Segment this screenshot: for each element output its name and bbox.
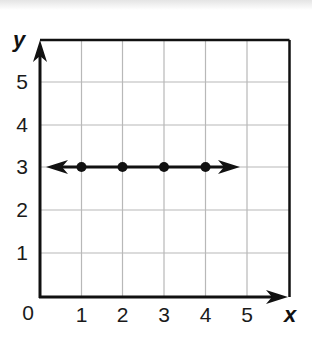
- point-3-3: [159, 162, 169, 172]
- y-axis: [33, 40, 47, 298]
- point-2-3: [118, 162, 128, 172]
- y-axis-label: y: [12, 27, 27, 52]
- coordinate-plane: 5 4 3 2 1 0 1 2 3 4 5 y x: [0, 0, 312, 345]
- y-tick-2: 2: [16, 198, 28, 221]
- y-tick-labels: 5 4 3 2 1: [16, 70, 28, 264]
- x-tick-4: 4: [200, 303, 212, 326]
- x-tick-1: 1: [76, 303, 88, 326]
- y-tick-1: 1: [16, 241, 28, 264]
- line-y-equals-3: [46, 160, 240, 174]
- point-4-3: [201, 162, 211, 172]
- origin-label: 0: [22, 301, 34, 324]
- point-1-3: [77, 162, 87, 172]
- y-tick-3: 3: [16, 155, 28, 178]
- x-axis-label: x: [283, 302, 297, 327]
- y-tick-5: 5: [16, 70, 28, 93]
- x-tick-labels: 0 1 2 3 4 5: [22, 301, 253, 326]
- x-tick-3: 3: [158, 303, 170, 326]
- x-tick-5: 5: [241, 303, 253, 326]
- y-tick-4: 4: [16, 113, 28, 136]
- x-tick-2: 2: [117, 303, 129, 326]
